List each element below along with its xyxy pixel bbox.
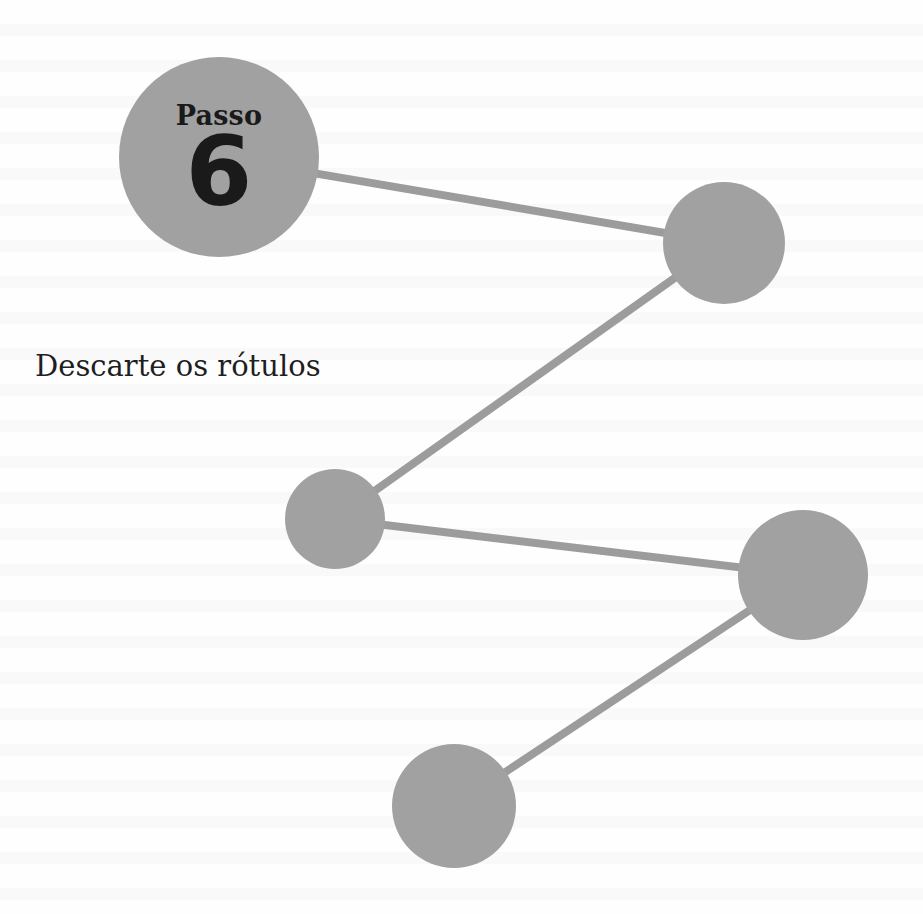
node-5-circle: [392, 744, 516, 868]
node-4-circle: [738, 510, 868, 640]
node-3-circle: [285, 469, 385, 569]
connector-line-3: [335, 519, 803, 575]
page: Passo 6 Descarte os rótulos: [0, 0, 923, 914]
node-2-circle: [663, 182, 785, 304]
connector-line-2: [335, 243, 724, 519]
step-title: Descarte os rótulos: [35, 349, 321, 383]
step-number: 6: [119, 122, 319, 222]
